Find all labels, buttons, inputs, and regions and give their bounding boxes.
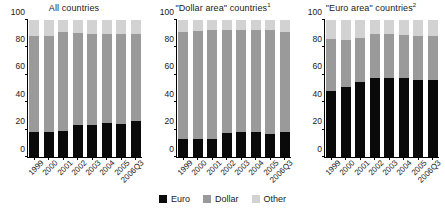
bar-segment-dollar <box>29 36 39 132</box>
legend-label-dollar: Dollar <box>215 194 239 204</box>
stacked-bar <box>236 20 246 157</box>
y-axis-tick-label: 0 <box>20 144 28 153</box>
bar-segment-other <box>207 20 217 30</box>
y-axis-tick-mark <box>322 46 325 47</box>
x-axis-labels-euro-area: 19992000200120022003200420052006Q3 <box>324 159 438 193</box>
stacked-bar <box>265 20 275 157</box>
stacked-bar <box>413 20 423 157</box>
bar-segment-other <box>280 20 290 32</box>
y-axis-tick-label: 100 <box>160 7 177 16</box>
x-axis-labels-dollar-area: 19992000200120022003200420052006Q3 <box>176 159 290 193</box>
y-axis-tick-label: 80 <box>313 35 325 44</box>
legend-swatch-euro-icon <box>159 195 167 203</box>
y-axis-tick-mark <box>174 156 177 157</box>
bar-segment-euro <box>355 82 365 157</box>
panel-title-text: All countries <box>49 3 99 13</box>
y-axis-tick-mark <box>322 156 325 157</box>
bar-segment-other <box>399 20 409 35</box>
y-axis-tick-label: 20 <box>16 117 28 126</box>
stacked-bar <box>44 20 54 157</box>
bar-segment-euro <box>87 125 97 157</box>
y-axis-tick-mark <box>25 101 28 102</box>
y-axis-tick-mark <box>322 19 325 20</box>
legend-item-dollar: Dollar <box>203 194 239 204</box>
bar-segment-other <box>193 20 203 31</box>
panel-all-countries: All countries 020406080100 1999200020012… <box>0 0 148 190</box>
bar-segment-dollar <box>341 40 351 87</box>
bar-segment-other <box>265 20 275 30</box>
bar-segment-other <box>236 20 246 30</box>
bar-segment-other <box>131 20 141 34</box>
bar-segment-euro <box>44 132 54 157</box>
stacked-bar <box>29 20 39 157</box>
y-axis-tick-mark <box>25 129 28 130</box>
stacked-bar <box>73 20 83 157</box>
bar-segment-other <box>58 20 68 32</box>
stacked-bar <box>428 20 438 157</box>
stacked-bar <box>178 20 188 157</box>
bar-segment-dollar <box>384 34 394 78</box>
bar-segment-dollar <box>251 30 261 133</box>
y-axis-tick-mark <box>322 74 325 75</box>
bar-segment-dollar <box>236 30 246 133</box>
y-axis-tick-label: 40 <box>165 89 177 98</box>
bar-segment-other <box>116 20 126 34</box>
bar-segment-dollar <box>280 32 290 133</box>
stacked-bar <box>355 20 365 157</box>
stacked-bar <box>102 20 112 157</box>
y-axis-tick-label: 0 <box>317 144 325 153</box>
y-axis-tick-label: 80 <box>165 35 177 44</box>
bar-segment-euro <box>131 121 141 157</box>
bar-segment-euro <box>178 139 188 157</box>
y-axis-tick-label: 100 <box>308 7 325 16</box>
y-axis-tick-mark <box>25 156 28 157</box>
bar-segment-other <box>251 20 261 30</box>
bar-segment-euro <box>413 80 423 157</box>
bar-segment-euro <box>265 134 275 157</box>
stacked-bar <box>399 20 409 157</box>
stacked-bar <box>131 20 141 157</box>
bar-segment-other <box>326 20 336 38</box>
bar-segment-euro <box>102 123 112 157</box>
stacked-bar <box>87 20 97 157</box>
plot-area-dollar-area: 020406080100 <box>176 20 291 158</box>
legend-swatch-other-icon <box>252 195 260 203</box>
bar-segment-other <box>341 20 351 40</box>
bar-segment-euro <box>207 139 217 157</box>
bar-segment-other <box>102 20 112 34</box>
chart-legend: Euro Dollar Other <box>0 194 445 204</box>
bar-segment-euro <box>73 125 83 157</box>
stacked-bar <box>193 20 203 157</box>
bar-segment-dollar <box>87 34 97 125</box>
y-axis-tick-label: 60 <box>313 62 325 71</box>
bar-segment-dollar <box>370 34 380 78</box>
bar-segment-euro <box>251 132 261 157</box>
bar-segment-other <box>222 20 232 30</box>
y-axis-tick-mark <box>25 74 28 75</box>
bar-segment-other <box>370 20 380 34</box>
stacked-bar <box>370 20 380 157</box>
panel-title-text: "Dollar area" countries <box>175 3 267 13</box>
bar-segment-dollar <box>207 30 217 138</box>
bar-segment-euro <box>236 132 246 157</box>
y-axis-tick-mark <box>174 74 177 75</box>
bar-segment-dollar <box>193 31 203 139</box>
bar-segment-euro <box>193 139 203 157</box>
bar-segment-dollar <box>399 35 409 78</box>
stacked-bar <box>251 20 261 157</box>
y-axis-tick-label: 0 <box>169 144 177 153</box>
legend-item-euro: Euro <box>159 194 190 204</box>
bar-segment-dollar <box>222 30 232 133</box>
bars-group-all-countries <box>28 20 142 157</box>
panel-title-superscript: 2 <box>413 2 416 8</box>
bar-segment-other <box>44 20 54 36</box>
bar-segment-euro <box>58 131 68 157</box>
y-axis-tick-label: 60 <box>16 62 28 71</box>
bar-segment-other <box>428 20 438 36</box>
panel-title-superscript: 1 <box>267 2 270 8</box>
bar-segment-euro <box>29 132 39 157</box>
bar-segment-euro <box>326 91 336 157</box>
stacked-bar <box>207 20 217 157</box>
bar-segment-other <box>384 20 394 34</box>
bar-segment-dollar <box>58 32 68 131</box>
